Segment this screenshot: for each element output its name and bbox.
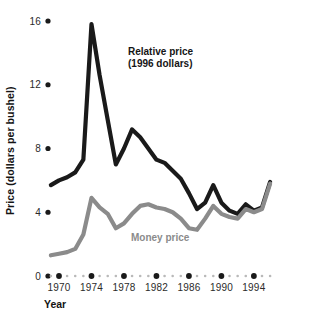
y-axis-title: Price (dollars per bushel) bbox=[4, 86, 16, 215]
y-axis-tick-label: 8 bbox=[35, 143, 41, 154]
x-axis-tick-group: 1970197419781982198619901994 bbox=[47, 273, 271, 293]
x-axis-minor-tick-dot bbox=[228, 275, 231, 278]
y-axis-tick-label: 16 bbox=[29, 16, 41, 27]
x-axis-minor-tick-dot bbox=[106, 275, 109, 278]
x-axis-major-tick-dot bbox=[121, 273, 127, 279]
x-axis-major-tick-dot bbox=[219, 273, 225, 279]
x-axis-major-tick-dot bbox=[186, 273, 192, 279]
chart-container: 0481216 1970197419781982198619901994 Pri… bbox=[0, 0, 310, 324]
x-axis-major-tick-dot bbox=[89, 273, 95, 279]
x-axis-minor-tick-dot bbox=[98, 275, 101, 278]
x-axis-minor-tick-dot bbox=[171, 275, 174, 278]
relative-price-annotation-line2: (1996 dollars) bbox=[128, 58, 192, 69]
money-price-annotation: Money price bbox=[131, 232, 190, 243]
series-line-money-price bbox=[51, 184, 270, 256]
x-axis-tick-label: 1974 bbox=[80, 282, 103, 293]
y-axis-tick-group: 0481216 bbox=[29, 16, 50, 282]
price-line-chart: 0481216 1970197419781982198619901994 Pri… bbox=[0, 0, 310, 324]
x-axis-minor-tick-dot bbox=[180, 275, 183, 278]
y-axis-tick-dot bbox=[45, 18, 50, 23]
x-axis-minor-tick-dot bbox=[115, 275, 118, 278]
y-axis-tick-label: 4 bbox=[35, 207, 41, 218]
x-axis-major-tick-dot bbox=[251, 273, 257, 279]
y-axis-tick-label: 0 bbox=[35, 271, 41, 282]
x-axis-major-tick-dot bbox=[154, 273, 160, 279]
y-axis-tick-dot bbox=[45, 82, 50, 87]
x-axis-minor-tick-dot bbox=[196, 275, 199, 278]
x-axis-major-tick-dot bbox=[56, 273, 62, 279]
y-axis-tick-label: 12 bbox=[29, 79, 41, 90]
x-axis-tick-label: 1990 bbox=[210, 282, 233, 293]
x-axis-minor-tick-dot bbox=[163, 275, 166, 278]
x-axis-tick-label: 1994 bbox=[242, 282, 265, 293]
x-axis-minor-tick-dot bbox=[66, 275, 69, 278]
x-axis-minor-tick-dot bbox=[131, 275, 134, 278]
relative-price-annotation-line1: Relative price bbox=[128, 46, 193, 57]
x-axis-minor-tick-dot bbox=[82, 275, 85, 278]
x-axis-minor-tick-dot bbox=[261, 275, 264, 278]
x-axis-title: Year bbox=[44, 298, 66, 310]
x-axis-tick-label: 1978 bbox=[112, 282, 135, 293]
x-axis-minor-tick-dot bbox=[212, 275, 215, 278]
y-axis-tick-dot bbox=[45, 210, 50, 215]
x-axis-minor-tick-dot bbox=[147, 275, 150, 278]
y-axis-tick-dot bbox=[45, 146, 50, 151]
x-axis-minor-tick-dot bbox=[204, 275, 207, 278]
x-axis-minor-tick-dot bbox=[236, 275, 239, 278]
x-axis-minor-tick-dot bbox=[244, 275, 247, 278]
x-axis-minor-tick-dot bbox=[50, 275, 53, 278]
x-axis-minor-tick-dot bbox=[74, 275, 77, 278]
x-axis-tick-label: 1986 bbox=[177, 282, 200, 293]
x-axis-tick-label: 1982 bbox=[145, 282, 168, 293]
x-axis-minor-tick-dot bbox=[139, 275, 142, 278]
x-axis-tick-label: 1970 bbox=[47, 282, 70, 293]
x-axis-minor-tick-dot bbox=[269, 275, 272, 278]
